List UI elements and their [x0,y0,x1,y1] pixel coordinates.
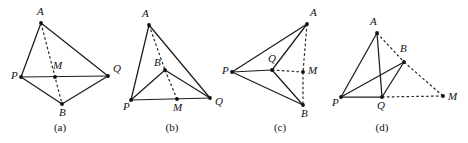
vertex-label-A: A [36,5,44,17]
solid-edge-QB [272,70,303,105]
vertex-label-P: P [221,64,229,76]
figure-panel-b: ABPMQ(b) [122,7,223,134]
vertex-dot-B [402,60,406,64]
solid-edge-AQ [377,33,382,97]
vertex-label-Q: Q [113,62,121,74]
vertex-label-P: P [122,100,130,112]
vertex-dot-Q [208,96,212,100]
solid-edge-QA [272,24,307,70]
vertex-dot-M [441,94,445,98]
solid-edge-BQ [62,76,108,104]
geometry-figure-canvas: APMQB(a)ABPMQ(b)APQMB(c)ABPQM(d) [0,0,468,143]
solid-edge-BQ [165,70,210,98]
solid-edge-AP [131,25,149,100]
vertex-dot-M [301,70,305,74]
vertex-dot-A [305,22,309,26]
figure-panel-c: APQMB(c) [221,6,318,134]
solid-edge-PQ [232,70,272,72]
vertex-dot-P [19,75,23,79]
figure-panel-d: ABPQM(d) [331,15,458,134]
vertex-dot-P [339,95,343,99]
vertex-label-A: A [141,7,149,19]
vertex-label-M: M [307,64,318,76]
dashed-edge-QM [382,96,443,97]
vertex-dot-Q [106,74,110,78]
vertex-label-B: B [301,107,308,119]
panel-caption: (b) [166,121,179,134]
solid-edge-AP [21,23,41,77]
vertex-dot-A [147,23,151,27]
dashed-edge-BM [404,62,443,96]
vertex-label-Q: Q [377,99,385,111]
solid-edge-PA [232,24,307,72]
vertex-dot-B [163,68,167,72]
vertex-label-M: M [172,101,183,113]
vertex-label-A: A [309,6,317,18]
panel-caption: (a) [54,121,67,134]
vertex-label-A: A [369,15,377,27]
vertex-label-Q: Q [268,52,276,64]
vertex-label-B: B [400,42,407,54]
vertex-dot-Q [270,68,274,72]
dashed-edge-QM [272,70,303,72]
solid-edge-AQ [41,23,108,76]
solid-edge-PQ [21,76,108,77]
vertex-label-B: B [154,56,161,68]
vertex-label-B: B [59,106,66,118]
solid-edge-PB [232,72,303,105]
panel-caption: (c) [274,121,287,134]
solid-edge-QB [382,62,404,97]
vertex-dot-A [375,31,379,35]
dashed-edge-AM [303,24,307,72]
vertex-label-M: M [447,90,458,102]
geometry-figure-sheet: APMQB(a)ABPMQ(b)APQMB(c)ABPQM(d) [0,0,468,143]
vertex-dot-A [39,21,43,25]
vertex-dot-P [230,70,234,74]
solid-edge-PB [131,70,165,100]
solid-edge-PQ [131,98,210,100]
vertex-label-P: P [331,96,339,108]
vertex-label-Q: Q [215,95,223,107]
vertex-label-P: P [10,69,18,81]
vertex-label-M: M [52,59,63,71]
figure-panel-a: APMQB(a) [10,5,121,134]
vertex-dot-M [53,75,57,79]
panel-caption: (d) [376,121,389,134]
